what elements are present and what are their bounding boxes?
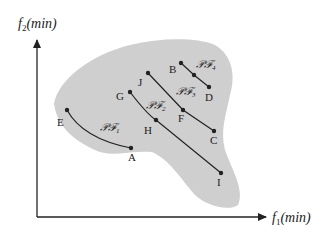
- y-axis-label: f2(min): [18, 16, 57, 33]
- label-H: H: [144, 124, 152, 136]
- point-G: [128, 90, 132, 94]
- point-H: [154, 118, 158, 122]
- point-J: [146, 71, 150, 75]
- label-F: F: [178, 112, 184, 124]
- point-B: [179, 61, 183, 65]
- label-J: J: [138, 76, 143, 88]
- point-I: [219, 171, 223, 175]
- label-C: C: [210, 134, 217, 146]
- x-axis-label: f1(min): [272, 210, 311, 227]
- point-C: [212, 129, 216, 133]
- label-D: D: [205, 91, 213, 103]
- label-G: G: [116, 90, 124, 102]
- label-I: I: [217, 176, 221, 188]
- label-A: A: [128, 151, 136, 163]
- point-A: [129, 146, 133, 150]
- point-D: [207, 85, 211, 89]
- label-E: E: [57, 116, 64, 128]
- point-E: [65, 108, 69, 112]
- pareto-front-diagram: f2(min) f1(min) E A G H I J F C B D 𝒫ℱ1 …: [0, 0, 332, 233]
- point-BD-mid: [192, 73, 196, 77]
- label-B: B: [169, 63, 176, 75]
